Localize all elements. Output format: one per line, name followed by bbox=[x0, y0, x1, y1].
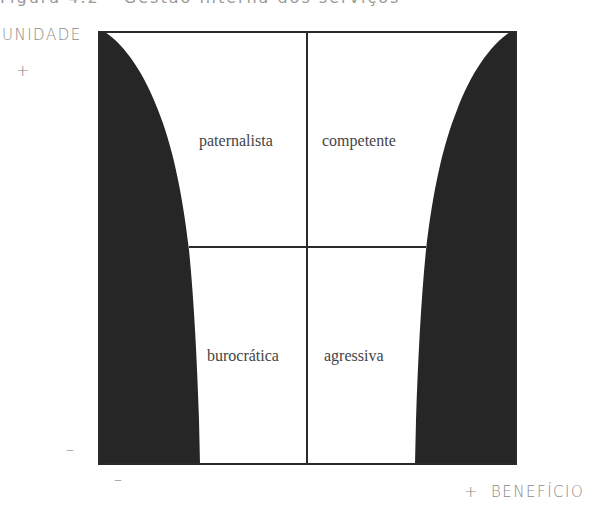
quadrant-bottom-right: agressiva bbox=[324, 347, 384, 365]
diagram-canvas bbox=[0, 0, 605, 520]
quadrant-top-left: paternalista bbox=[199, 132, 273, 150]
quadrant-bottom-left: burocrática bbox=[207, 347, 279, 365]
left-shaded-region bbox=[98, 32, 200, 464]
right-shaded-region bbox=[415, 32, 517, 464]
quadrant-top-right: competente bbox=[322, 132, 396, 150]
